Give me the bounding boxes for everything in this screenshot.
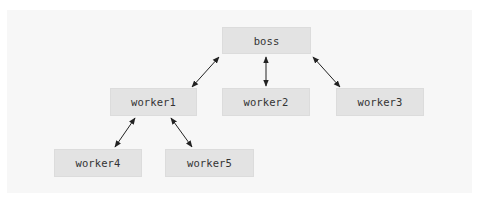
node-worker4: worker4	[54, 149, 142, 177]
node-label: worker1	[131, 96, 176, 108]
diagram-canvas: boss worker1 worker2 worker3 worker4 wor…	[0, 0, 482, 201]
node-label: worker4	[76, 157, 121, 169]
node-worker3: worker3	[336, 88, 424, 116]
edge-worker1-worker4	[115, 118, 135, 147]
node-label: worker5	[187, 157, 232, 169]
node-worker2: worker2	[222, 88, 310, 116]
node-label: worker2	[244, 96, 289, 108]
node-worker1: worker1	[110, 88, 197, 116]
node-label: boss	[254, 35, 280, 47]
edge-boss-worker3	[313, 57, 340, 87]
node-label: worker3	[358, 96, 403, 108]
edge-worker1-worker5	[171, 118, 192, 147]
node-worker5: worker5	[165, 149, 254, 177]
node-boss: boss	[222, 27, 311, 54]
edge-boss-worker1	[192, 57, 219, 87]
